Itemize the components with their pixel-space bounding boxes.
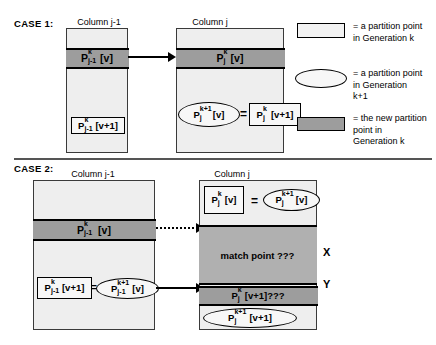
case1-left-dark-band: Pkj-1[v] — [66, 48, 129, 69]
case2-match-point-region: match point ??? — [199, 225, 317, 285]
case2-left-dark-band: Pkj-1[v] — [33, 219, 156, 241]
case2-x-label: X — [323, 246, 330, 258]
case1-right-equals: = — [240, 107, 247, 121]
case2-left-band-label: Pkj-1[v] — [77, 225, 111, 236]
case2-left-column: Pkj-1[v] Pkj-1[v+1] = Pk+1j-1[v] — [33, 180, 155, 330]
case2-y-band: Pkj[v+1]??? — [199, 286, 318, 306]
case2-y-band-label: Pkj[v+1]??? — [231, 291, 284, 301]
case2-left-ellipse-label: Pk+1j-1[v] — [111, 284, 144, 294]
legend-item-1-text: = a partition point in Generation k — [353, 21, 436, 44]
case2-bottom-partition-ellipse: Pk+1j[v+1] — [203, 308, 297, 328]
case1-right-box-label: Pkj[v+1] — [257, 110, 294, 120]
case1-right-ellipse-label: Pk+1j[v] — [194, 110, 225, 120]
case-divider — [14, 158, 432, 160]
case1-transfer-arrow-line — [128, 56, 170, 58]
case2-right-column: Pkj[v] = Pk+1j[v] match point ??? Pkj[v+… — [199, 180, 317, 330]
case2-top-equals: = — [251, 194, 258, 208]
case1-label: CASE 1: — [14, 18, 54, 29]
case1-left-band-label: Pkj-1[v] — [81, 53, 113, 64]
legend-box-swatch — [297, 23, 345, 38]
case1-left-column: Pkj-1[v] Pkj-1[v+1] — [66, 28, 128, 153]
case2-bottom-ellipse-label: Pk+1j[v+1] — [228, 313, 272, 323]
case1-right-partition-box: Pkj[v+1] — [249, 103, 301, 126]
case1-left-partition-box: Pkj-1[v+1] — [71, 117, 125, 134]
case2-match-point-text: match point ??? — [221, 250, 295, 261]
case2-right-column-title: Column j — [197, 169, 267, 179]
case2-y-label: Y — [323, 278, 330, 290]
case2-left-box-label: Pkj-1[v+1] — [45, 283, 85, 293]
case2-left-partition-ellipse: Pk+1j-1[v] — [96, 278, 159, 299]
case2-label: CASE 2: — [14, 163, 54, 174]
case2-left-column-title: Column j-1 — [58, 169, 128, 179]
case2-top-partition-box: Pkj[v] — [204, 186, 244, 214]
case1-left-box-label: Pkj-1[v+1] — [78, 121, 118, 131]
case1-right-partition-ellipse: Pk+1j[v] — [178, 102, 240, 127]
case2-top-partition-ellipse: Pk+1j[v] — [263, 189, 320, 211]
case2-solid-arrow-line — [156, 287, 198, 289]
legend-ellipse-swatch — [295, 69, 347, 88]
case1-left-column-title: Column j-1 — [64, 17, 134, 27]
case1-right-dark-band: Pkj[v] — [176, 48, 285, 69]
case1-right-column: Pkj[v] Pk+1j[v] = Pkj[v+1] — [176, 28, 284, 153]
legend-item-2-text: = a partition point in Generation k+1 — [353, 68, 436, 103]
case1-right-band-label: Pkj[v] — [217, 53, 244, 64]
case2-top-ellipse-label: Pk+1j[v] — [276, 195, 308, 205]
case2-left-partition-box: Pkj-1[v+1] — [37, 277, 92, 299]
case2-dotted-arrow-line — [156, 227, 198, 229]
case1-right-column-title: Column j — [175, 17, 245, 27]
legend-item-3-text: = the new partition point in Generation … — [353, 113, 436, 148]
case2-top-box-label: Pkj[v] — [212, 195, 237, 205]
legend-dark-swatch — [297, 117, 345, 131]
